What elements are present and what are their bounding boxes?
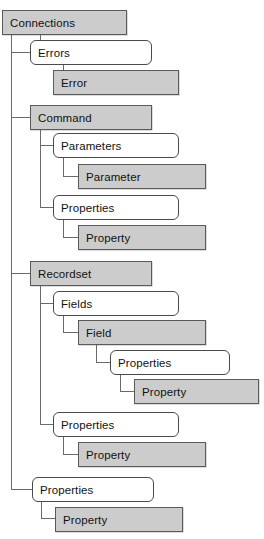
node-recordset[interactable]: Recordset <box>30 261 152 286</box>
node-cmd-properties[interactable]: Properties <box>53 195 179 220</box>
node-label: Parameters <box>61 140 121 152</box>
node-label: Parameter <box>86 171 141 183</box>
node-label: Connections <box>10 17 75 29</box>
connector-elbow-connprops <box>11 489 33 490</box>
node-conn-properties[interactable]: Properties <box>32 477 154 502</box>
node-label: Properties <box>61 202 114 214</box>
node-label: Properties <box>61 419 114 431</box>
connector-elbow-rsprops <box>40 424 54 425</box>
node-connections[interactable]: Connections <box>2 10 127 35</box>
node-field-property[interactable]: Property <box>134 379 259 404</box>
node-label: Property <box>142 386 186 398</box>
connector-elbow-field <box>63 332 79 333</box>
connector-elbow-fields <box>40 303 54 304</box>
node-label: Property <box>63 514 107 526</box>
connector-elbow-command <box>11 117 31 118</box>
node-label: Properties <box>118 357 171 369</box>
node-label: Properties <box>40 484 93 496</box>
node-rs-property[interactable]: Property <box>78 442 206 467</box>
connector-elbow-recordset <box>11 273 31 274</box>
object-model-diagram: ConnectionsErrorsErrorCommandParametersP… <box>0 0 264 539</box>
node-field-properties[interactable]: Properties <box>110 350 230 375</box>
connector-elbow-rsproperty <box>63 454 79 455</box>
connector-elbow-parameters <box>40 145 54 146</box>
connector-elbow-cmdprops <box>40 207 54 208</box>
connector-elbow-connproperty <box>41 518 56 519</box>
connector-elbow-parameter <box>63 176 79 177</box>
node-parameter[interactable]: Parameter <box>78 164 206 189</box>
connector-stub-fieldprops <box>120 375 121 392</box>
node-parameters[interactable]: Parameters <box>53 133 179 158</box>
node-field[interactable]: Field <box>78 320 206 345</box>
node-command[interactable]: Command <box>30 105 152 130</box>
connector-elbow-fieldprop <box>120 391 135 392</box>
node-error[interactable]: Error <box>53 70 179 95</box>
connector-elbow-fieldprops <box>96 362 111 363</box>
connector-stub-parameters <box>63 158 64 177</box>
connector-trunk-connections <box>11 35 12 490</box>
node-label: Command <box>38 112 92 124</box>
connector-stub-connprops <box>41 502 42 519</box>
node-label: Errors <box>38 47 70 59</box>
connector-stub-fields <box>63 316 64 333</box>
node-label: Error <box>61 77 87 89</box>
connector-stub-rsprops <box>63 437 64 455</box>
node-label: Field <box>86 327 111 339</box>
connector-stub-cmdprops <box>63 220 64 238</box>
node-rs-properties[interactable]: Properties <box>53 412 179 437</box>
connector-stub-command-down <box>40 130 41 208</box>
node-label: Recordset <box>38 268 91 280</box>
node-errors[interactable]: Errors <box>30 40 152 65</box>
node-label: Fields <box>61 298 92 310</box>
node-conn-property[interactable]: Property <box>55 507 183 532</box>
node-label: Property <box>86 449 130 461</box>
node-cmd-property[interactable]: Property <box>78 225 206 250</box>
connector-stub-field <box>96 345 97 363</box>
connector-stub-recordset-down <box>40 286 41 424</box>
node-fields[interactable]: Fields <box>53 291 179 316</box>
connector-elbow-cmdproperty <box>63 237 79 238</box>
connector-elbow-errors <box>11 52 30 53</box>
node-label: Property <box>86 232 130 244</box>
